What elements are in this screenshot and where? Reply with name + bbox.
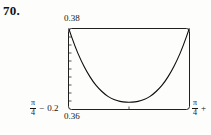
y-axis-min-label: 0.36 (64, 112, 80, 121)
curve-plot (69, 29, 189, 102)
x-max-fraction: π 4 (192, 99, 198, 117)
x-axis-min-label: π 4 − 0.2 (30, 99, 58, 117)
plot-area (68, 28, 190, 110)
y-axis-max-label: 0.38 (64, 14, 80, 23)
x-axis-max-label: π 4 + (192, 99, 209, 117)
x-min-operator: − (38, 104, 45, 113)
plot-svg (68, 28, 190, 110)
x-min-fraction: π 4 (30, 99, 36, 117)
viewing-window-frame (69, 29, 190, 110)
x-min-offset: 0.2 (47, 104, 58, 113)
figure-container: 70. 0.38 0.36 π 4 (0, 0, 211, 135)
x-max-operator: + (200, 104, 207, 113)
problem-number-label: 70. (3, 4, 20, 17)
x-max-denominator: 4 (192, 109, 198, 118)
x-min-denominator: 4 (30, 109, 36, 118)
